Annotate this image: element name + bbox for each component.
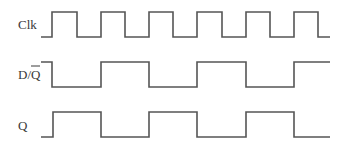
signal-label-q: Q (18, 118, 28, 133)
timing-diagram: Clk D/Q Q (0, 0, 344, 148)
d-qbar-waveform (41, 62, 330, 87)
label-qbar-part: Q (31, 67, 41, 82)
signal-clk: Clk (18, 12, 330, 37)
signal-label-d-qbar: D/Q (18, 67, 41, 82)
signal-q: Q (18, 112, 330, 137)
signal-label-clk: Clk (18, 17, 37, 32)
clk-waveform (41, 12, 330, 37)
label-d-part: D/ (18, 67, 31, 82)
q-waveform (41, 112, 330, 137)
signal-d-qbar: D/Q (18, 62, 330, 87)
